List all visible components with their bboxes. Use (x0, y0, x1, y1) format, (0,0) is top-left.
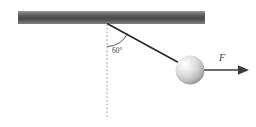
force-arrow-head (238, 65, 249, 75)
figure-canvas: 60° F (0, 0, 256, 127)
force-label: F (218, 52, 226, 63)
ceiling-bar (18, 11, 205, 24)
angle-label: 60° (112, 46, 123, 55)
angle-arc (107, 33, 128, 46)
physics-figure: 60° F (0, 0, 256, 127)
pendulum-bob (176, 56, 205, 85)
pendulum-string (108, 24, 183, 65)
